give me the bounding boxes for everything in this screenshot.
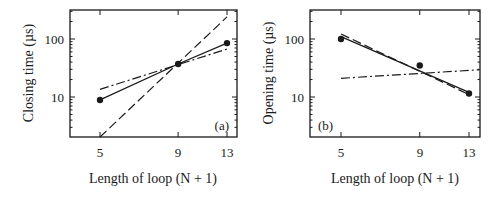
data-point (175, 61, 181, 67)
figure: (a) 10 100 5 9 13 Length of loop (N + 1)… (0, 0, 503, 200)
xlabel-b: Length of loop (N + 1) (331, 171, 459, 187)
data-point (417, 62, 423, 68)
xtick-label-b-9: 9 (417, 145, 424, 160)
panel-b-opening-time: (b) 10 100 5 9 13 Length of loop (N + 1)… (261, 10, 480, 187)
data-point (97, 97, 103, 103)
fit-line-dashed (100, 17, 227, 137)
xtick-label-b-13: 13 (463, 145, 476, 160)
fit-line-dashdot (341, 70, 479, 79)
ylabel-a: Closing time (µs) (21, 24, 37, 123)
xlabel-a: Length of loop (N + 1) (89, 171, 217, 187)
fit-lines-b (341, 34, 479, 95)
data-points-b (338, 36, 472, 97)
ytick-label-b-10: 10 (291, 90, 304, 105)
panel-a-closing-time: (a) 10 100 5 9 13 Length of loop (N + 1)… (21, 10, 237, 187)
xtick-label-a-13: 13 (221, 145, 234, 160)
ytick-label-b-100: 100 (285, 32, 305, 47)
ylabel-b: Opening time (µs) (261, 21, 277, 124)
data-point (466, 90, 472, 96)
fit-lines-a (100, 17, 227, 137)
data-point (338, 36, 344, 42)
xtick-label-a-9: 9 (175, 145, 182, 160)
data-points-a (97, 40, 230, 103)
plot-frame-a (70, 10, 237, 137)
panel-label-a: (a) (215, 118, 229, 133)
ytick-label-a-100: 100 (45, 32, 65, 47)
data-point (224, 40, 230, 46)
xtick-label-a-5: 5 (97, 145, 104, 160)
panel-label-b: (b) (318, 118, 333, 133)
fit-line-solid (100, 43, 227, 100)
plot-frame-b (310, 10, 480, 137)
axis-ticks-a (70, 10, 237, 137)
axis-ticks-b (310, 10, 480, 137)
fit-line-dashed (341, 34, 469, 95)
fit-line-dashdot (100, 49, 227, 89)
xtick-label-b-5: 5 (338, 145, 345, 160)
ytick-label-a-10: 10 (51, 90, 64, 105)
